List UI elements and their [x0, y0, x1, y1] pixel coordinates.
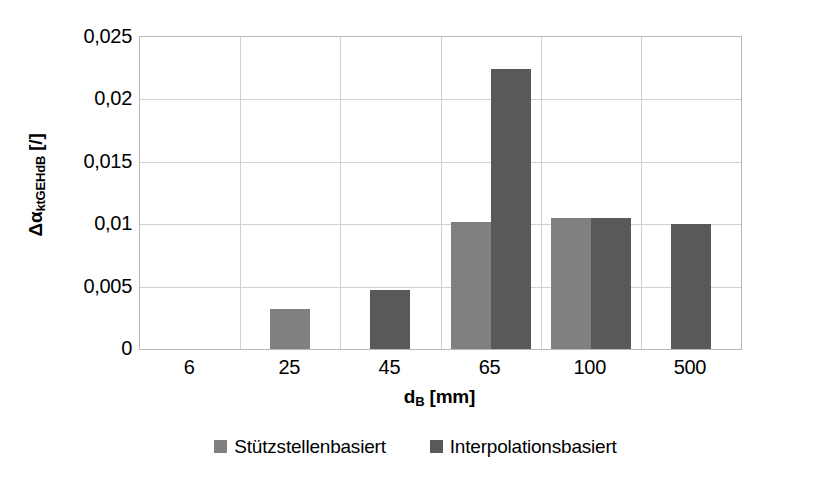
x-axis-tick-label: 45 [379, 355, 401, 379]
bar-100-series0 [551, 218, 591, 349]
x-axis-tick-label: 65 [479, 355, 501, 379]
y-axis-tick-label: 0,02 [94, 88, 132, 108]
bar-65-series1 [491, 69, 531, 349]
bar-100-series1 [591, 218, 631, 349]
x-axis-title-subscript: B [415, 394, 424, 409]
legend-item-0[interactable]: Stützstellenbasiert [214, 437, 385, 456]
x-axis-tick-label: 25 [278, 355, 300, 379]
bar-500-series1 [671, 224, 711, 349]
plot-area [139, 36, 742, 350]
y-axis-tick-label: 0,025 [83, 26, 132, 46]
y-axis-tick-label: 0,005 [83, 276, 132, 296]
legend-item-label: Stützstellenbasiert [234, 437, 385, 456]
legend-swatch-icon [430, 440, 443, 453]
x-axis-title-unit: [mm] [424, 386, 475, 407]
legend-item-1[interactable]: Interpolationsbasiert [430, 437, 617, 456]
x-axis-tick-labels: 6254565100500 [139, 355, 740, 385]
legend-item-label: Interpolationsbasiert [450, 437, 617, 456]
bar-45-series1 [370, 290, 410, 349]
bar-group-45 [340, 37, 440, 349]
legend-swatch-icon [214, 440, 227, 453]
x-axis-title: dB [mm] [139, 386, 740, 408]
chart-legend: StützstellenbasiertInterpolationsbasiert [0, 437, 831, 456]
y-axis-tick-labels: 00,0050,010,0150,020,025 [40, 0, 138, 488]
bar-25-series0 [270, 309, 310, 349]
bar-group-25 [240, 37, 340, 349]
x-axis-tick-label: 100 [574, 355, 606, 379]
y-axis-tick-label: 0,01 [94, 213, 132, 233]
x-axis-title-base: d [404, 386, 415, 407]
bar-group-65 [441, 37, 541, 349]
y-axis-tick-label: 0 [121, 338, 132, 358]
y-axis-tick-label: 0,015 [83, 151, 132, 171]
bar-chart-figure: ΔαktGEHdB [/] 00,0050,010,0150,020,025 6… [0, 0, 831, 488]
x-axis-tick-label: 500 [674, 355, 706, 379]
bar-group-6 [140, 37, 240, 349]
bar-65-series0 [451, 222, 491, 349]
bar-group-500 [641, 37, 741, 349]
x-axis-tick-label: 6 [184, 355, 195, 379]
bar-group-100 [541, 37, 641, 349]
